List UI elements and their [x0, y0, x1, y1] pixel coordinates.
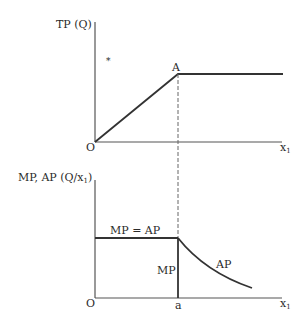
- production-diagram: TP (Q) * A O x1 MP, AP (Q/x1) MP = AP MP…: [0, 0, 305, 321]
- mp-label: MP: [157, 264, 176, 277]
- mp-equals-ap-label: MP = AP: [110, 224, 161, 237]
- top-x-axis-label: x1: [280, 141, 291, 155]
- point-a-label: A: [171, 61, 181, 74]
- top-origin-label: O: [86, 141, 95, 154]
- bottom-y-axis-label: MP, AP (Q/x1): [18, 171, 92, 185]
- top-y-axis-label: TP (Q): [56, 18, 92, 31]
- tp-curve: [95, 74, 283, 142]
- ap-curve: [178, 238, 252, 288]
- bottom-chart: MP, AP (Q/x1) MP = AP MP AP O a x1: [18, 171, 291, 312]
- asterisk-mark: *: [106, 56, 111, 66]
- top-chart: TP (Q) * A O x1: [56, 18, 291, 155]
- bottom-origin-label: O: [86, 297, 95, 310]
- ap-label: AP: [215, 258, 232, 271]
- bottom-x-axis-label: x1: [280, 297, 291, 311]
- a-tick-label: a: [175, 299, 182, 312]
